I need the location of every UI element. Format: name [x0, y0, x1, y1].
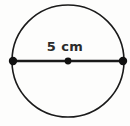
geometry-canvas	[0, 0, 130, 126]
circle-diameter-diagram: 5 cm	[0, 0, 130, 126]
center-dot	[65, 58, 72, 65]
left-endpoint-dot	[9, 57, 17, 65]
right-endpoint-dot	[119, 57, 127, 65]
